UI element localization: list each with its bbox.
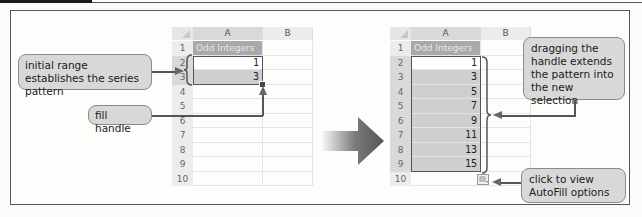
connector-fill-handle-v bbox=[262, 94, 264, 116]
row-header[interactable]: 6 bbox=[390, 114, 411, 129]
callout-autofill-text: click to view AutoFill options bbox=[529, 173, 609, 198]
arrowhead-icon bbox=[493, 111, 502, 119]
cell-a4[interactable]: 5 bbox=[411, 85, 481, 100]
cell-b6[interactable] bbox=[263, 114, 313, 129]
cell-a9[interactable]: 15 bbox=[411, 157, 481, 172]
top-bar-dark bbox=[0, 0, 92, 3]
row-header[interactable]: 5 bbox=[172, 99, 193, 114]
cell-a8[interactable] bbox=[193, 143, 263, 158]
row-header[interactable]: 8 bbox=[172, 143, 193, 158]
cell-a1[interactable]: Odd Integers bbox=[193, 41, 263, 56]
column-header-a[interactable]: A bbox=[411, 27, 481, 40]
cell-a2[interactable]: 1 bbox=[411, 56, 481, 71]
cell-a2[interactable]: 1 bbox=[193, 56, 263, 71]
row-header[interactable]: 7 bbox=[390, 128, 411, 143]
row-header[interactable]: 2 bbox=[390, 56, 411, 71]
left-worksheet: A B 1 2 3 4 5 6 7 8 9 10 Odd Integers 1 … bbox=[172, 27, 314, 187]
right-worksheet: A B 1 2 3 4 5 6 7 8 9 10 Odd Integers 1 … bbox=[390, 27, 532, 187]
row-header[interactable]: 7 bbox=[172, 128, 193, 143]
cell-b8[interactable] bbox=[263, 143, 313, 158]
cell-a3[interactable]: 3 bbox=[411, 70, 481, 85]
row-header[interactable]: 9 bbox=[172, 157, 193, 172]
arrowhead-icon bbox=[259, 86, 267, 95]
cell-b7[interactable] bbox=[263, 128, 313, 143]
cell-a7[interactable]: 11 bbox=[411, 128, 481, 143]
callout-dragging-text: dragging the handle extends the pattern … bbox=[531, 42, 614, 106]
callout-autofill: click to view AutoFill options bbox=[521, 168, 626, 203]
callout-fill-handle: fill handle bbox=[88, 105, 152, 125]
callout-fill-handle-text: fill handle bbox=[95, 109, 131, 134]
cell-a6[interactable]: 9 bbox=[411, 114, 481, 129]
connector-initial-range bbox=[152, 71, 176, 73]
connector-dragging-h bbox=[500, 115, 576, 117]
cell-b10[interactable] bbox=[263, 172, 313, 187]
column-header-b[interactable]: B bbox=[481, 27, 531, 40]
top-bar-line bbox=[92, 2, 642, 3]
row-header[interactable]: 5 bbox=[390, 99, 411, 114]
cell-a4[interactable] bbox=[193, 85, 263, 100]
cell-b5[interactable] bbox=[263, 99, 313, 114]
transition-arrow-icon bbox=[320, 117, 384, 165]
cell-a5[interactable] bbox=[193, 99, 263, 114]
cell-b1[interactable] bbox=[263, 41, 313, 56]
cell-a8[interactable]: 13 bbox=[411, 143, 481, 158]
right-brace-icon bbox=[481, 56, 491, 174]
row-header[interactable]: 1 bbox=[390, 41, 411, 56]
left-brace-icon bbox=[184, 54, 194, 86]
row-header[interactable]: 4 bbox=[390, 85, 411, 100]
autofill-options-glyph-icon bbox=[479, 176, 489, 184]
column-header-a[interactable]: A bbox=[193, 27, 263, 40]
connector-autofill bbox=[500, 182, 521, 184]
row-header[interactable]: 10 bbox=[172, 172, 193, 187]
column-header-b[interactable]: B bbox=[263, 27, 313, 40]
select-all-corner[interactable] bbox=[390, 27, 411, 40]
cell-a10[interactable] bbox=[411, 172, 481, 187]
cell-b2[interactable] bbox=[263, 56, 313, 71]
cell-b4[interactable] bbox=[263, 85, 313, 100]
cell-a9[interactable] bbox=[193, 157, 263, 172]
connector-dragging-v bbox=[574, 100, 576, 116]
cell-b3[interactable] bbox=[263, 70, 313, 85]
row-header[interactable]: 8 bbox=[390, 143, 411, 158]
cell-a7[interactable] bbox=[193, 128, 263, 143]
row-header[interactable]: 9 bbox=[390, 157, 411, 172]
row-header[interactable]: 3 bbox=[390, 70, 411, 85]
callout-initial-range: initial range establishes the series pat… bbox=[18, 54, 152, 90]
callout-dragging: dragging the handle extends the pattern … bbox=[523, 37, 625, 100]
cell-a5[interactable]: 7 bbox=[411, 99, 481, 114]
arrowhead-icon bbox=[175, 67, 184, 75]
cell-a10[interactable] bbox=[193, 172, 263, 187]
row-header[interactable]: 10 bbox=[390, 172, 411, 187]
cell-b9[interactable] bbox=[263, 157, 313, 172]
cell-a3[interactable]: 3 bbox=[193, 70, 263, 85]
row-header[interactable]: 4 bbox=[172, 85, 193, 100]
connector-fill-handle-h bbox=[152, 115, 263, 117]
cell-a1[interactable]: Odd Integers bbox=[411, 41, 481, 56]
arrowhead-icon bbox=[492, 178, 501, 186]
select-all-corner[interactable] bbox=[172, 27, 193, 40]
